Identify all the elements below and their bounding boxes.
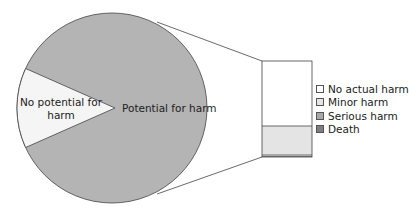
legend-item-serious-harm: Serious harm [316,109,409,123]
bar-segment-no-actual-harm [262,61,312,126]
legend-item-minor-harm: Minor harm [316,96,409,110]
label-potential-for-harm: Potential for harm [122,102,217,115]
legend-label: No actual harm [328,83,409,95]
legend-swatch-icon [316,125,324,133]
legend-item-death: Death [316,123,409,137]
legend: No actual harm Minor harm Serious harm D… [316,82,409,136]
legend-swatch-icon [316,98,324,106]
legend-item-no-actual-harm: No actual harm [316,82,409,96]
legend-label: Serious harm [328,110,398,122]
legend-label: Minor harm [328,96,388,108]
legend-swatch-icon [316,112,324,120]
label-no-potential-for-harm: No potential for harm [18,96,104,122]
bar-segment-minor-harm [262,126,312,154]
label-line-1: No potential for [18,96,104,109]
bar-segment-serious-harm [262,154,312,156]
legend-swatch-icon [316,85,324,93]
label-line-2: harm [18,109,104,122]
legend-label: Death [328,123,360,135]
stacked-bar [262,61,312,157]
